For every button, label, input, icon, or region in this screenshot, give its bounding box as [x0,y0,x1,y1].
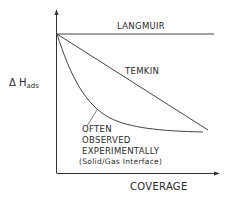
y-axis-label: Δ Hads [9,78,39,90]
y-axis-label-main: Δ H [9,77,27,88]
experimental-label-line2: OBSERVED [82,136,131,145]
x-axis-label: COVERAGE [130,182,188,192]
temkin-label: TEMKIN [125,67,159,76]
experimental-label-line4: (Solid/Gas Interface) [79,158,162,166]
experimental-label-line3: EXPERIMENTALLY [82,147,159,156]
y-axis-arrow-icon [55,9,59,15]
experimental-curve [57,34,203,132]
temkin-line [57,34,208,130]
x-axis-arrow-icon [214,172,220,176]
y-axis-label-subscript: ads [27,82,39,90]
experimental-label-line1: OFTEN [82,125,112,134]
langmuir-label: LANGMUIR [117,22,165,31]
